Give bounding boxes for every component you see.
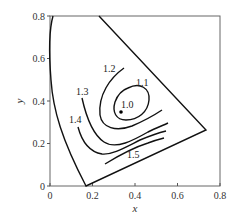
contour-label-1-1: 1.1 xyxy=(136,77,149,88)
contour-label-1-5: 1.5 xyxy=(127,149,140,160)
contour-label-1-2: 1.2 xyxy=(103,63,116,74)
y-axis-label: y xyxy=(13,98,25,104)
x-tick-label: 0.2 xyxy=(86,190,99,201)
x-tick-label: 0 xyxy=(48,190,53,201)
y-tick-label: 0.8 xyxy=(33,11,46,22)
x-tick-label: 0.6 xyxy=(171,190,184,201)
white-point-marker xyxy=(119,110,123,114)
y-tick-label: 0.2 xyxy=(33,138,46,149)
x-tick-label: 0.8 xyxy=(214,190,227,201)
chart-canvas: 0 0.2 0.4 0.6 0.8 0 0.2 0.4 0.6 0.8 x y … xyxy=(0,0,239,224)
y-tick-label: 0.6 xyxy=(33,53,46,64)
y-tick-label: 0 xyxy=(40,181,45,192)
contour-label-1-4: 1.4 xyxy=(69,114,82,125)
x-tick-label: 0.4 xyxy=(129,190,142,201)
x-axis-label: x xyxy=(132,202,138,214)
chromaticity-contour-chart: 0 0.2 0.4 0.6 0.8 0 0.2 0.4 0.6 0.8 x y … xyxy=(0,0,239,224)
plot-frame xyxy=(50,16,220,186)
contour-line-1-4 xyxy=(78,127,166,154)
contour-label-1-0: 1.0 xyxy=(121,99,134,110)
y-tick-label: 0.4 xyxy=(33,96,46,107)
contour-label-1-3: 1.3 xyxy=(76,86,89,97)
